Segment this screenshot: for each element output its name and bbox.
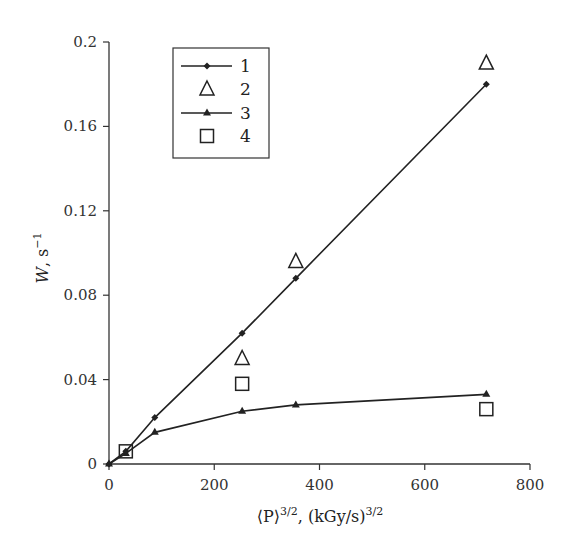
- y-tick-label: 0.08: [64, 286, 97, 304]
- legend-label: 2: [240, 79, 251, 99]
- series-3: [105, 390, 490, 467]
- x-tick-label: 0: [104, 476, 114, 494]
- open-triangle-marker-icon: [289, 253, 303, 267]
- legend-label: 4: [240, 126, 251, 146]
- series-1: [106, 81, 490, 468]
- axes: 020040060080000.040.080.120.160.2: [64, 33, 545, 494]
- y-tick-label: 0: [87, 455, 97, 473]
- y-tick-label: 0.2: [73, 33, 97, 51]
- x-tick-label: 200: [200, 476, 229, 494]
- x-tick-label: 400: [305, 476, 334, 494]
- legend-label: 1: [240, 56, 251, 76]
- y-tick-label: 0.04: [64, 371, 97, 389]
- open-triangle-marker-icon: [235, 351, 249, 365]
- x-tick-label: 800: [516, 476, 545, 494]
- filled-triangle-marker-icon: [482, 390, 490, 397]
- legend-label: 3: [240, 103, 251, 123]
- filled-triangle-marker-icon: [292, 400, 300, 407]
- data-series: [105, 55, 493, 467]
- open-triangle-marker-icon: [479, 55, 493, 69]
- x-axis-label: ⟨P⟩3/2, (kGy/s)3/2: [257, 505, 383, 526]
- chart: 020040060080000.040.080.120.160.2 1234 ⟨…: [0, 0, 571, 555]
- legend: 1234: [173, 48, 269, 158]
- series-4: [119, 377, 492, 458]
- series-2: [235, 55, 493, 364]
- y-tick-label: 0.12: [64, 202, 97, 220]
- y-axis-label: W, s−1: [31, 232, 52, 283]
- x-tick-label: 600: [410, 476, 439, 494]
- legend-box: [173, 48, 269, 158]
- open-square-marker-icon: [480, 403, 493, 416]
- open-square-marker-icon: [236, 377, 249, 390]
- y-tick-label: 0.16: [64, 117, 97, 135]
